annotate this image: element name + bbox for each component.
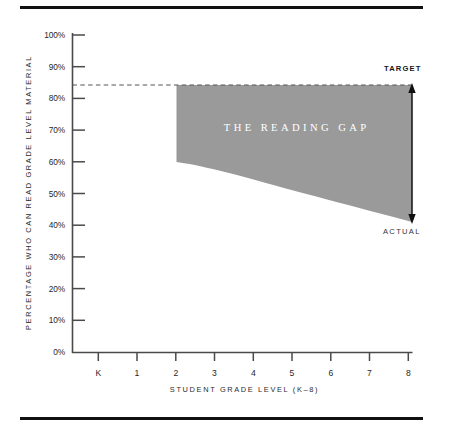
y-tick-label: 70%	[33, 125, 65, 135]
x-tick-label: 8	[398, 368, 418, 378]
x-axis-title: STUDENT GRADE LEVEL (K–8)	[72, 385, 417, 394]
reading-gap-band	[177, 85, 413, 222]
chart-canvas	[0, 0, 450, 431]
x-tick-label: 1	[127, 368, 147, 378]
x-tick-label: 6	[321, 368, 341, 378]
y-tick-label: 30%	[33, 252, 65, 262]
reading-gap-figure: PERCENTAGE WHO CAN READ GRADE LEVEL MATE…	[0, 0, 450, 431]
x-tick-label: K	[88, 368, 108, 378]
y-tick-label: 50%	[33, 189, 65, 199]
y-tick-label: 20%	[33, 284, 65, 294]
actual-annotation-label: ACTUAL	[383, 227, 421, 236]
y-tick-label: 60%	[33, 157, 65, 167]
x-tick-marks	[98, 353, 408, 362]
x-tick-label: 4	[243, 368, 263, 378]
y-tick-label: 40%	[33, 220, 65, 230]
target-annotation-label: TARGET	[384, 64, 422, 73]
y-tick-marks	[73, 35, 86, 320]
y-tick-label: 90%	[33, 62, 65, 72]
x-tick-label: 2	[166, 368, 186, 378]
x-tick-label: 5	[282, 368, 302, 378]
y-tick-label: 10%	[33, 315, 65, 325]
y-axis-title: PERCENTAGE WHO CAN READ GRADE LEVEL MATE…	[24, 23, 33, 363]
reading-gap-label: THE READING GAP	[178, 122, 412, 133]
y-tick-label: 80%	[33, 93, 65, 103]
x-tick-label: 3	[205, 368, 225, 378]
y-tick-label: 0%	[33, 347, 65, 357]
x-tick-label: 7	[360, 368, 380, 378]
y-tick-label: 100%	[33, 30, 65, 40]
